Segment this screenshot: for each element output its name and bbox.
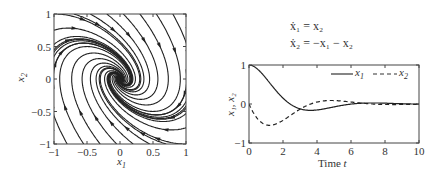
phase-trajectories	[41, 14, 199, 144]
svg-text:0: 0	[246, 145, 252, 157]
svg-text:−1: −1	[234, 137, 246, 149]
x1-line	[249, 65, 419, 110]
phase-y-axis-label: x2	[14, 73, 29, 83]
time-x-axis-label: Time t	[318, 157, 348, 169]
equation-1: ẋ₁ = x₂	[290, 19, 323, 33]
legend-x2-label: x2	[398, 66, 408, 81]
svg-text:0.5: 0.5	[37, 41, 51, 53]
equation-2: ẋ₂ = −x₁ − x₂	[290, 36, 353, 50]
svg-text:1: 1	[46, 8, 52, 20]
figure: −1−1−0.5−0.5000.50.511 x1 x2 ẋ₁ = x₂ ẋ₂ …	[0, 0, 437, 179]
svg-text:10: 10	[414, 145, 426, 157]
svg-text:4: 4	[314, 145, 320, 157]
phase-portrait-plot: −1−1−0.5−0.5000.50.511 x1 x2	[14, 8, 200, 170]
legend: x1 x2	[331, 66, 408, 81]
svg-text:1: 1	[241, 59, 247, 71]
svg-text:2: 2	[280, 145, 286, 157]
svg-text:−1: −1	[39, 138, 51, 150]
legend-x1-label: x1	[354, 66, 364, 81]
svg-text:0: 0	[46, 73, 52, 85]
svg-text:8: 8	[382, 145, 388, 157]
svg-text:0: 0	[241, 98, 247, 110]
svg-text:−0.5: −0.5	[77, 146, 97, 158]
svg-text:0.5: 0.5	[146, 146, 160, 158]
x2-line	[249, 101, 419, 126]
time-response-plot: 0246810−101 Time t x₁, x₂ x1 x2	[224, 59, 425, 169]
system-equations: ẋ₁ = x₂ ẋ₂ = −x₁ − x₂	[290, 19, 353, 50]
svg-text:1: 1	[183, 146, 189, 158]
time-y-axis-label: x₁, x₂	[224, 93, 236, 117]
svg-text:−0.5: −0.5	[31, 106, 51, 118]
phase-x-axis-label: x1	[116, 155, 126, 170]
svg-text:6: 6	[348, 145, 354, 157]
